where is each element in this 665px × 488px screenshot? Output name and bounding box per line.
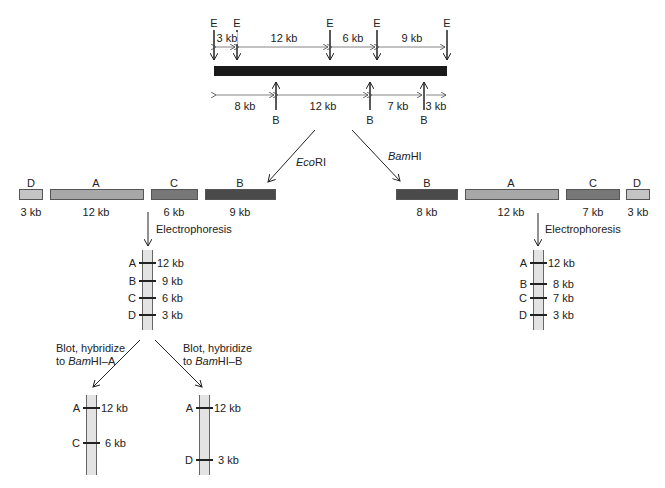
ecori-site-label: E xyxy=(443,17,450,29)
band-name: A xyxy=(186,402,193,414)
fragment-size: 3 kb xyxy=(21,206,42,218)
band-name: C xyxy=(72,437,80,449)
band-name: D xyxy=(519,309,527,321)
gel-band-d xyxy=(139,314,156,316)
bamhi-enzyme-label: BamHI xyxy=(388,150,422,162)
band-size: 9 kb xyxy=(162,275,183,287)
band-size: 7 kb xyxy=(553,292,574,304)
bamhi-segment-label: 12 kb xyxy=(310,100,337,112)
ecori-fragment-c xyxy=(151,189,198,200)
gel-band-c xyxy=(139,297,156,299)
band-name: A xyxy=(129,257,136,269)
blot-a-label-line1: Blot, hybridize xyxy=(56,342,125,354)
gel-band-a xyxy=(139,262,156,264)
fragment-name: B xyxy=(423,177,430,189)
bamhi-electrophoresis-label: Electrophoresis xyxy=(545,223,621,235)
fragment-size: 12 kb xyxy=(498,206,525,218)
blot-a-lane xyxy=(86,395,97,475)
bamhi-site-label: B xyxy=(272,114,279,126)
band-size: 12 kb xyxy=(157,257,184,269)
ecori-segment-label: 12 kb xyxy=(271,32,298,44)
ecori-segment-label: 3 kb xyxy=(217,32,238,44)
fragment-size: 9 kb xyxy=(230,206,251,218)
band-name: D xyxy=(128,309,136,321)
band-name: B xyxy=(520,278,527,290)
band-size: 6 kb xyxy=(162,292,183,304)
fragment-size: 12 kb xyxy=(83,206,110,218)
ecori-gel-lane xyxy=(142,250,153,330)
gel-band-d xyxy=(530,314,547,316)
fragment-size: 7 kb xyxy=(583,206,604,218)
blot-band-c xyxy=(83,442,100,444)
band-name: A xyxy=(520,257,527,269)
bamhi-fragment-a xyxy=(465,189,559,200)
blot-b-label-line2: to BamHI–B xyxy=(183,355,242,367)
band-size: 8 kb xyxy=(553,278,574,290)
band-name: A xyxy=(73,402,80,414)
fragment-name: D xyxy=(633,177,641,189)
ecori-site-label: E xyxy=(210,17,217,29)
blot-band-a xyxy=(83,407,100,409)
diagram-lines xyxy=(0,0,665,488)
ecori-site-label: E xyxy=(233,17,240,29)
band-name: C xyxy=(128,292,136,304)
ecori-segment-label: 9 kb xyxy=(402,32,423,44)
bamhi-segment-label: 8 kb xyxy=(235,100,256,112)
blot-b-label-line1: Blot, hybridize xyxy=(183,342,252,354)
gel-band-b xyxy=(139,280,156,282)
fragment-name: A xyxy=(507,177,514,189)
blot-b-lane xyxy=(199,395,210,475)
ecori-site-label: E xyxy=(373,17,380,29)
fragment-size: 6 kb xyxy=(164,206,185,218)
fragment-name: C xyxy=(589,177,597,189)
fragment-name: C xyxy=(170,177,178,189)
ecori-fragment-a xyxy=(50,189,144,200)
ecori-fragment-b xyxy=(205,189,276,200)
bamhi-segment-label: 7 kb xyxy=(388,100,409,112)
band-name: B xyxy=(129,275,136,287)
ecori-site-label: E xyxy=(326,17,333,29)
gel-band-b xyxy=(530,283,547,285)
blot-band-a xyxy=(196,407,213,409)
band-size: 12 kb xyxy=(214,402,241,414)
band-size: 3 kb xyxy=(162,309,183,321)
blot-a-label-line2: to BamHI–A xyxy=(56,355,115,367)
bamhi-fragment-c xyxy=(566,189,620,200)
bamhi-fragment-b xyxy=(396,189,458,200)
dna-molecule xyxy=(214,66,447,76)
ecori-enzyme-label: EcoRI xyxy=(296,156,326,168)
band-size: 12 kb xyxy=(101,402,128,414)
band-name: C xyxy=(519,292,527,304)
bamhi-site-label: B xyxy=(366,114,373,126)
ecori-segment-label: 6 kb xyxy=(343,32,364,44)
blot-band-d xyxy=(196,459,213,461)
bamhi-segment-label: 3 kb xyxy=(426,100,447,112)
fragment-name: B xyxy=(236,177,243,189)
band-size: 12 kb xyxy=(548,257,575,269)
ecori-fragment-d xyxy=(19,189,43,200)
fragment-size: 8 kb xyxy=(417,206,438,218)
band-size: 3 kb xyxy=(553,309,574,321)
fragment-name: D xyxy=(27,177,35,189)
band-name: D xyxy=(185,454,193,466)
bamhi-gel-lane xyxy=(533,250,544,330)
gel-band-c xyxy=(530,297,547,299)
gel-band-a xyxy=(530,262,547,264)
fragment-name: A xyxy=(92,177,99,189)
bamhi-fragment-d xyxy=(626,189,650,200)
fragment-size: 3 kb xyxy=(628,206,649,218)
band-size: 6 kb xyxy=(105,437,126,449)
ecori-electrophoresis-label: Electrophoresis xyxy=(156,223,232,235)
band-size: 3 kb xyxy=(218,454,239,466)
bamhi-site-label: B xyxy=(420,114,427,126)
